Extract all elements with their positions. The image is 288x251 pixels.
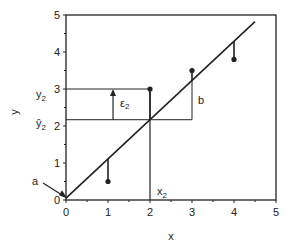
data-point (147, 86, 152, 91)
x-tick-label: 5 (273, 206, 279, 218)
epsilon-arrowhead (110, 89, 116, 96)
y-tick-label: 3 (54, 83, 60, 95)
y-tick-label: 4 (54, 46, 60, 58)
y-tick-label: 0 (54, 194, 60, 206)
regression-line (66, 22, 255, 198)
annotation-y2: y2 (36, 88, 47, 103)
annotation-b: b (198, 94, 204, 106)
x-tick-label: 4 (231, 206, 237, 218)
annotation-x2: x2 (157, 185, 168, 200)
x-tick-label: 3 (189, 206, 195, 218)
annotation-yhat2: ŷ2 (36, 117, 47, 132)
plot-frame (66, 15, 276, 200)
data-point (231, 57, 236, 62)
y-tick-label: 2 (54, 120, 60, 132)
data-point (105, 179, 110, 184)
annotation-epsilon2: ε2 (120, 97, 130, 111)
data-point (189, 68, 194, 73)
annotation-a: a (32, 175, 39, 187)
x-tick-label: 0 (63, 206, 69, 218)
y-tick-label: 1 (54, 157, 60, 169)
y-axis-label: y (8, 109, 20, 115)
x-axis-label: x (168, 230, 174, 242)
x-tick-label: 2 (147, 206, 153, 218)
x-tick-label: 1 (105, 206, 111, 218)
y-tick-label: 5 (54, 9, 60, 21)
regression-chart: 012345012345 x y a b ε2 y2 ŷ2 x2 (0, 0, 288, 251)
